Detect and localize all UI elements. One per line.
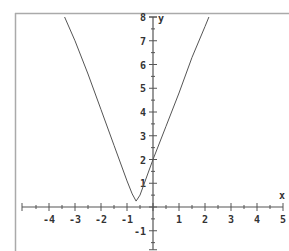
y-tick-label: 7 [140,36,146,47]
y-tick-label: 5 [140,83,146,94]
graph-plot: -4-3-2-112345-112345678 x y [0,0,289,251]
y-tick-label: 4 [140,107,146,118]
y-tick-label: 2 [140,155,146,166]
x-tick-label: -3 [69,214,81,225]
y-tick-label: -1 [134,226,146,237]
x-tick-label: 5 [280,214,286,225]
tick-labels: -4-3-2-112345-112345678 [43,12,286,237]
y-tick-label: 6 [140,60,146,71]
x-tick-label: 2 [202,214,208,225]
ticks [36,17,283,243]
x-tick-label: -4 [43,214,55,225]
x-axis-label: x [279,190,285,201]
y-axis-label: y [158,13,164,24]
x-tick-label: 4 [254,214,260,225]
x-tick-label: -1 [121,214,133,225]
x-tick-label: 3 [228,214,234,225]
x-tick-label: -2 [95,214,107,225]
x-tick-label: 1 [176,214,182,225]
axes [22,17,283,250]
function-curve [65,17,209,201]
y-tick-label: 3 [140,131,146,142]
y-tick-label: 8 [140,12,146,23]
